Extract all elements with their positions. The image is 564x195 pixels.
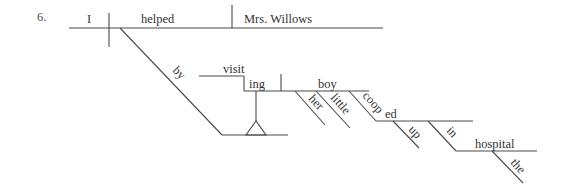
modifier-word-up: up (406, 123, 425, 142)
modifier-word-her: her (306, 92, 328, 114)
gerund-stem-word: visit (223, 62, 245, 76)
inner-preposition-word: in (444, 124, 461, 141)
subject-word: I (87, 12, 91, 26)
gerund-object-word: boy (318, 77, 338, 91)
participle-stem-word: coop (360, 89, 387, 116)
pedestal-triangle (246, 121, 266, 135)
item-number: 6. (37, 10, 46, 24)
preposition-slant (120, 28, 222, 135)
sentence-diagram: 6. I helped Mrs. Willows by visit ing bo… (0, 0, 564, 195)
inner-object-word: hospital (475, 137, 515, 151)
participle-suffix-word: ed (385, 107, 398, 121)
modifier-word-the: the (508, 156, 529, 177)
direct-object-word: Mrs. Willows (244, 12, 312, 26)
preposition-word: by (170, 63, 189, 82)
gerund-suffix-word: ing (249, 77, 266, 91)
verb-word: helped (141, 12, 175, 26)
modifier-word-little: little (328, 91, 354, 118)
